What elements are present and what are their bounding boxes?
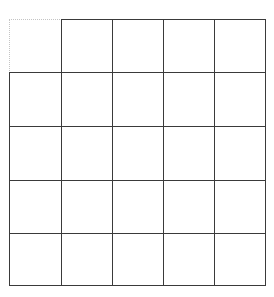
grid-cell [163,19,215,73]
square-grid [0,0,274,297]
grid-cell [163,180,215,234]
grid-cell [112,19,164,73]
grid-cell [112,233,164,286]
grid-cell [9,126,62,181]
grid-cell [61,19,113,73]
grid-cell [214,19,266,73]
grid-cell [163,233,215,286]
grid-cell [61,233,113,286]
grid-cell [61,180,113,234]
grid-cell [112,180,164,234]
grid-cell [163,72,215,127]
grid-cell [9,72,62,127]
grid-cell [214,180,266,234]
grid-cell [112,72,164,127]
empty-cell-placeholder [9,19,62,73]
grid-cell [61,72,113,127]
grid-cell [214,233,266,286]
grid-cell [9,180,62,234]
grid-cell [61,126,113,181]
grid-cell [9,233,62,286]
grid-cell [112,126,164,181]
grid-cell [163,126,215,181]
grid-cell [214,72,266,127]
grid-cell [214,126,266,181]
